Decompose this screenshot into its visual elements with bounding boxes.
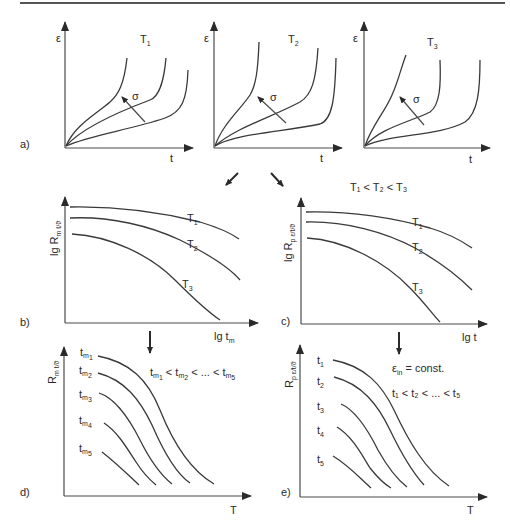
panel-label-e: e)	[281, 486, 291, 498]
panel-e: e) Rp ε/t/ϑ T εin = const. t₁ < t₂ < ...…	[281, 345, 487, 516]
label-tm2: tm2	[79, 364, 92, 379]
temperature-title: T3	[427, 36, 438, 50]
curve-t1	[70, 207, 239, 239]
y-axis-label: Rm t/ϑ	[46, 360, 60, 384]
creep-curve-high-stress	[365, 55, 406, 146]
label-tm4: tm4	[79, 414, 92, 429]
label-t2: T2	[187, 238, 198, 252]
curve-t1	[333, 360, 449, 486]
curve-tm2	[98, 373, 190, 483]
curve-t3	[72, 234, 220, 320]
x-axis-label: T	[230, 504, 237, 516]
x-axis-label: lg t	[462, 331, 477, 343]
subplot-a-t3: ε t T3 σ	[353, 22, 490, 165]
creep-strength-diagram: a) ε t T1 σ ε t T2 σ	[0, 0, 510, 532]
creep-curve-mid-stress	[215, 48, 318, 146]
label-tm1: tm1	[80, 346, 93, 361]
panel-a: a) ε t T1 σ ε t T2 σ	[20, 22, 490, 165]
label-t2: T2	[412, 241, 423, 255]
creep-curve-mid-stress	[66, 58, 166, 146]
y-axis-label: lg Rp ε/t/ϑ	[282, 224, 297, 262]
label-tm5: tm5	[79, 442, 92, 457]
y-axis-label: Rp ε/t/ϑ	[283, 361, 298, 388]
label-t3: T3	[412, 281, 423, 295]
y-axis-label: lg Rm t/ϑ	[48, 221, 62, 256]
x-axis-label: t	[170, 152, 173, 164]
strain-condition: εin = const.	[392, 362, 444, 376]
x-axis-label: t	[469, 153, 472, 165]
curve-t1	[306, 212, 472, 248]
creep-curve-high-stress	[66, 58, 127, 146]
panel-label-b: b)	[20, 316, 30, 328]
label-tm3: tm3	[79, 388, 92, 403]
panel-label-d: d)	[20, 486, 30, 498]
duration-relation: t₁ < t₂ < ... < t₅	[392, 387, 460, 399]
y-axis-label: ε	[56, 32, 61, 44]
label-t3: T3	[182, 278, 193, 292]
stress-label: σ	[132, 90, 139, 102]
stress-label: σ	[413, 93, 420, 105]
curve-tm3	[99, 393, 172, 484]
panel-c: c) lg Rp ε/t/ϑ lg t T1 T2 T3	[281, 198, 487, 343]
stress-direction-arrow	[400, 97, 424, 125]
stress-label: σ	[270, 91, 277, 103]
label-t2: t2	[317, 375, 324, 389]
subplot-a-t1: ε t T1 σ	[56, 22, 193, 164]
label-t3: t3	[317, 400, 324, 414]
label-t4: t4	[317, 424, 324, 438]
duration-relation: tm1 < tm2 < ... < tm5	[150, 366, 235, 381]
temperature-relation: T₁ < T₂ < T₃	[350, 181, 407, 193]
creep-curve-low-stress	[66, 70, 188, 146]
label-t1: T1	[187, 212, 198, 226]
y-axis-label: ε	[204, 32, 209, 44]
label-t1: T1	[412, 216, 423, 230]
x-axis-label: T	[467, 504, 474, 516]
panel-label-a: a)	[20, 138, 30, 150]
x-axis-label: lg tm	[214, 330, 235, 344]
arrow-a-to-b	[226, 173, 238, 185]
temperature-title: T2	[288, 33, 299, 47]
temperature-title: T1	[140, 33, 151, 47]
panel-label-c: c)	[281, 315, 290, 327]
creep-curve-high-stress	[215, 42, 259, 146]
panel-b: b) lg Rm t/ϑ lg tm T1 T2 T3	[20, 197, 258, 344]
subplot-a-t2: ε t T2 σ	[204, 22, 342, 164]
panel-d: d) Rm t/ϑ T tm1 < tm2 < ... < tm5 tm1 tm…	[20, 346, 251, 516]
curve-t2	[306, 222, 472, 290]
label-t5: t5	[317, 453, 324, 467]
label-t1: t1	[317, 354, 324, 368]
y-axis-label: ε	[353, 32, 358, 44]
x-axis-label: t	[320, 152, 323, 164]
arrow-a-to-c	[271, 173, 283, 186]
